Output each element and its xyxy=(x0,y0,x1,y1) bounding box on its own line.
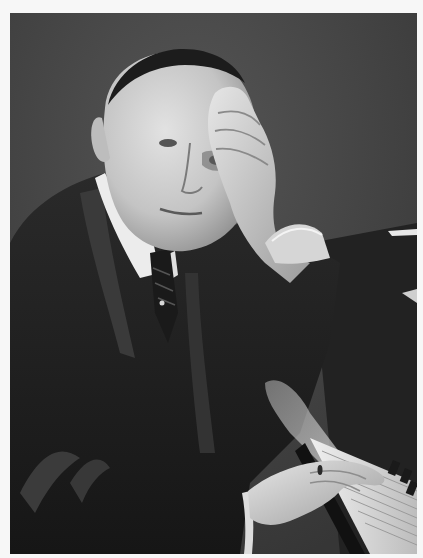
ring xyxy=(318,465,323,475)
portrait-illustration xyxy=(10,13,417,554)
tie-pin xyxy=(160,301,165,306)
left-eye xyxy=(159,139,177,147)
portrait-photo xyxy=(10,13,417,554)
